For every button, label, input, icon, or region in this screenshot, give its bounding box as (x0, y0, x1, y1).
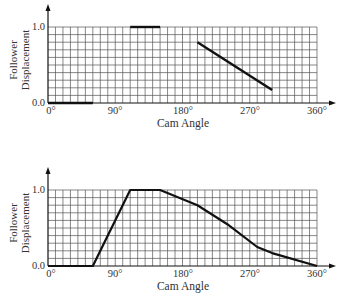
top-y-axis-arrow-icon (46, 4, 51, 11)
top-ylabel-line1: Follower (7, 40, 19, 80)
top-ytick-0: 0.0 (32, 97, 45, 108)
top-x-axis-arrow-icon (329, 101, 336, 106)
top-xtick-0: 0° (46, 105, 55, 116)
bottom-ytick-1: 1.0 (32, 184, 45, 195)
bottom-xtick-270: 270° (240, 268, 260, 279)
top-xtick-90: 90° (108, 105, 123, 116)
bottom-x-axis-arrow-icon (329, 264, 336, 269)
top-xtick-360: 360° (307, 105, 327, 116)
bottom-xlabel: Cam Angle (157, 280, 209, 293)
bottom-ylabel-line1: Follower (7, 203, 19, 243)
bottom-xtick-0: 0° (46, 268, 55, 279)
top-ylabel-line2: Displacement (19, 30, 31, 90)
top-chart: 1.0 0.0 0° 90° 180° 270° 360° Cam Angle … (0, 0, 354, 150)
bottom-xtick-90: 90° (108, 268, 123, 279)
bottom-ylabel-line2: Displacement (19, 193, 31, 253)
bottom-xtick-360: 360° (307, 268, 327, 279)
top-xlabel: Cam Angle (157, 117, 209, 130)
bottom-chart: 1.0 0.0 0° 90° 180° 270° 360° Cam Angle … (0, 150, 354, 300)
top-grid (48, 27, 317, 103)
bottom-y-axis-arrow-icon (46, 167, 51, 174)
bottom-ytick-0: 0.0 (32, 260, 45, 271)
top-xtick-180: 180° (173, 105, 193, 116)
top-ytick-1: 1.0 (32, 21, 45, 32)
bottom-xtick-180: 180° (173, 268, 193, 279)
top-xtick-270: 270° (240, 105, 260, 116)
